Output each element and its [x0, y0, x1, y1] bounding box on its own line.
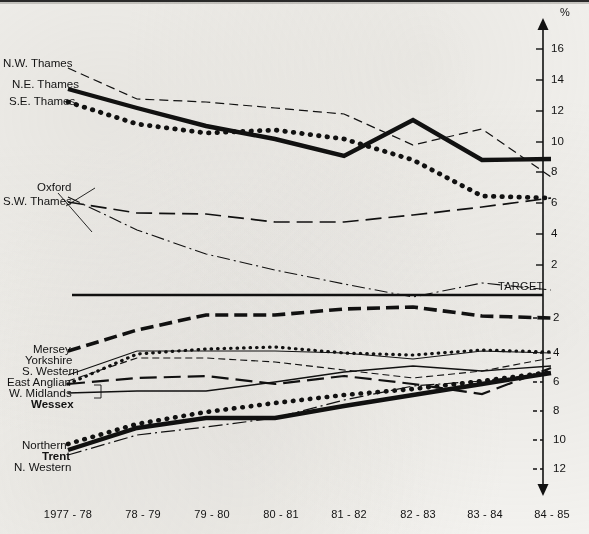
- y-axis-arrow-up: [538, 18, 549, 30]
- y-axis: [538, 18, 549, 496]
- series-label-nw-thames: N.W. Thames: [3, 58, 72, 70]
- y-tick-14: 14: [551, 74, 564, 86]
- x-tick-1977-78: 1977 - 78: [44, 509, 92, 520]
- line-chart-plot: [0, 0, 589, 534]
- x-tick-80-81: 80 - 81: [263, 509, 299, 520]
- x-tick-83-84: 83 - 84: [467, 509, 503, 520]
- y-tick-8: 8: [551, 166, 557, 178]
- y-axis-arrow-down: [538, 484, 549, 496]
- series-label-oxford: Oxford: [37, 182, 72, 194]
- series-line-trent: [68, 373, 551, 450]
- chart-page: N.W. Thames N.E. Thames S.E. Thames Oxfo…: [0, 0, 589, 534]
- y-tick-6: 6: [551, 197, 557, 209]
- series-line-oxford: [68, 197, 551, 297]
- y-tick-10: 10: [551, 136, 564, 148]
- x-tick-79-80: 79 - 80: [194, 509, 230, 520]
- y-tick-16: 16: [551, 43, 564, 55]
- series-label-n-western: N. Western: [14, 462, 71, 474]
- series-line-sw-thames: [68, 198, 551, 222]
- x-tick-81-82: 81 - 82: [331, 509, 367, 520]
- y-axis-unit-label: %: [560, 6, 570, 18]
- y-axis-ticks-lower: [533, 318, 543, 469]
- y-tick-minus-6: 6: [553, 376, 559, 388]
- series-label-se-thames: S.E. Thames: [9, 96, 75, 108]
- y-tick-minus-10: 10: [553, 434, 566, 446]
- series-line-se-thames: [68, 102, 551, 198]
- series-line-mersey: [68, 307, 551, 351]
- series-label-ne-thames: N.E. Thames: [12, 79, 79, 91]
- y-tick-4: 4: [551, 228, 557, 240]
- series-label-sw-thames: S.W. Thames: [3, 196, 72, 208]
- y-tick-minus-8: 8: [553, 405, 559, 417]
- x-tick-78-79: 78 - 79: [125, 509, 161, 520]
- y-tick-minus-2: 2: [553, 312, 559, 324]
- y-tick-minus-4: 4: [553, 347, 559, 359]
- series-label-wessex: Wessex: [31, 399, 74, 411]
- x-tick-84-85: 84 - 85: [534, 509, 570, 520]
- target-label: TARGET: [498, 280, 544, 292]
- y-tick-12: 12: [551, 105, 564, 117]
- y-tick-minus-12: 12: [553, 463, 566, 475]
- y-tick-2: 2: [551, 259, 557, 271]
- x-tick-82-83: 82 - 83: [400, 509, 436, 520]
